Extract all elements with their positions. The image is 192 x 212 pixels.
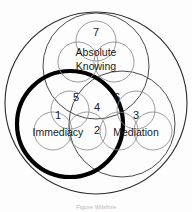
venn-diagram-figure: 7 Absolute Knowing 5 4 6 1 Immediacy 2 3…: [0, 0, 192, 212]
figure-caption: Figure Wilshire: [76, 204, 117, 210]
immediacy-circle-highlighted: [17, 71, 123, 177]
region-number-6: 6: [114, 91, 120, 103]
immediacy-label: Immediacy: [33, 126, 85, 138]
region-number-7: 7: [93, 26, 99, 38]
venn-diagram-svg: 7 Absolute Knowing 5 4 6 1 Immediacy 2 3…: [0, 0, 192, 212]
absolute-knowing-label-line1: Absolute: [76, 46, 117, 58]
mediation-label: Mediation: [113, 126, 159, 138]
region-number-2: 2: [94, 124, 100, 136]
region-number-4: 4: [94, 101, 100, 113]
region-number-3: 3: [133, 109, 139, 121]
region-number-1: 1: [55, 109, 61, 121]
region-number-5: 5: [73, 91, 79, 103]
absolute-knowing-label-line2: Knowing: [76, 60, 116, 72]
